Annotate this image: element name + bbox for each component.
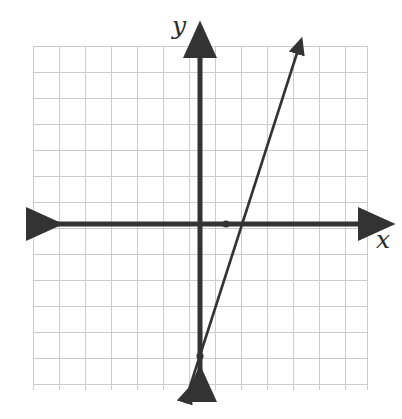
graph-canvas	[0, 0, 402, 419]
point-y-intercept	[196, 352, 203, 359]
y-axis-label: y	[172, 13, 186, 38]
point-x-intercept	[222, 220, 229, 227]
x-axis-label: x	[376, 227, 390, 252]
coordinate-plane-figure: y x	[0, 0, 402, 419]
